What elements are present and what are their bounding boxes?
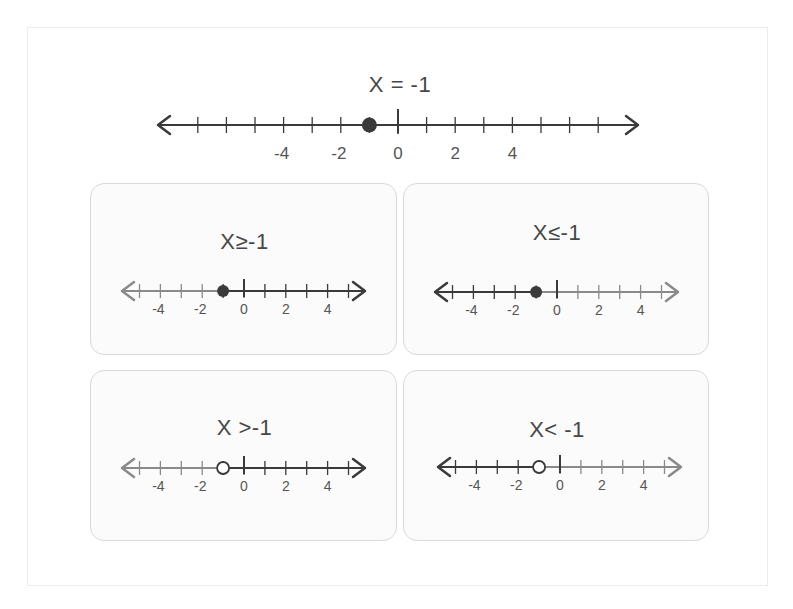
card-number-lines: -4-2024-4-2024-4-2024-4-2024 [0,0,793,609]
number-line: -4-2024 [122,456,365,494]
number-line: -4-2024 [435,280,678,318]
tick-label: 2 [282,301,290,317]
tick-label: 0 [240,301,248,317]
closed-dot-icon [217,285,229,297]
tick-label: 4 [324,478,332,494]
tick-label: 2 [282,478,290,494]
tick-label: -2 [507,302,520,318]
tick-label: -4 [468,477,481,493]
open-dot-icon [533,461,545,473]
tick-label: 0 [553,302,561,318]
number-line: -4-2024 [438,455,681,493]
tick-label: -2 [194,301,207,317]
number-line: -4-2024 [122,279,365,317]
open-dot-icon [217,462,229,474]
tick-label: -2 [510,477,523,493]
tick-label: -4 [152,301,165,317]
tick-label: 2 [595,302,603,318]
closed-dot-icon [530,286,542,298]
tick-label: 4 [637,302,645,318]
tick-label: -2 [194,478,207,494]
tick-label: -4 [152,478,165,494]
tick-label: -4 [465,302,478,318]
tick-label: 0 [556,477,564,493]
tick-label: 4 [324,301,332,317]
tick-label: 0 [240,478,248,494]
tick-label: 4 [640,477,648,493]
tick-label: 2 [598,477,606,493]
